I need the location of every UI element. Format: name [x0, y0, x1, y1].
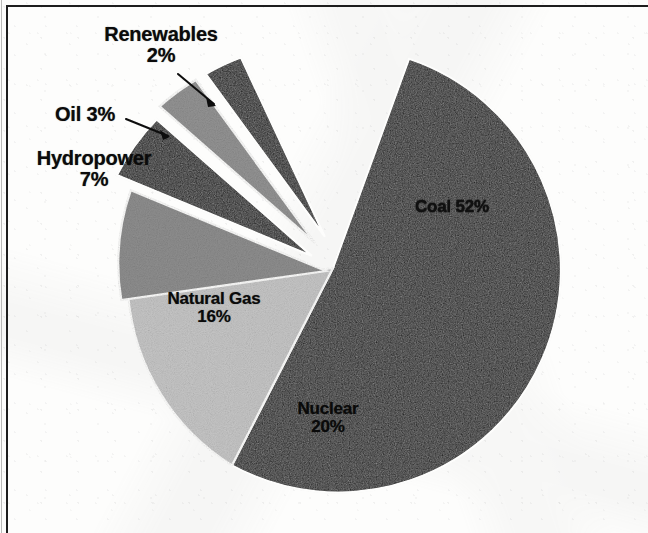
- pie-label-renewables-name: Renewables: [78, 24, 244, 45]
- pie-chart: [0, 0, 648, 533]
- pie-label-hydropower: Hydropower 7%: [14, 148, 174, 190]
- pie-label-renewables: Renewables 2%: [78, 24, 244, 66]
- pie-chart-svg: [0, 0, 648, 533]
- pie-label-nuclear-percent: 20%: [268, 418, 388, 436]
- pie-label-natural-gas-percent: 16%: [134, 308, 294, 326]
- pie-label-oil-name: Oil: [55, 103, 81, 125]
- pie-label-nuclear-name: Nuclear: [268, 400, 388, 418]
- pie-label-coal-percent: 52%: [456, 197, 489, 216]
- pie-label-hydropower-percent: 7%: [14, 169, 174, 190]
- pie-label-renewables-percent: 2%: [78, 45, 244, 66]
- chart-page: Renewables 2% Oil 3% Hydropower 7% Natur…: [0, 0, 648, 533]
- pie-label-oil-percent: 3%: [86, 103, 115, 125]
- pie-label-oil: Oil 3%: [24, 104, 146, 125]
- pie-label-natural-gas-name: Natural Gas: [134, 290, 294, 308]
- pie-label-nuclear: Nuclear 20%: [268, 400, 388, 436]
- pie-label-natural-gas: Natural Gas 16%: [134, 290, 294, 326]
- pie-label-coal-name: Coal: [415, 197, 451, 216]
- pie-label-hydropower-name: Hydropower: [14, 148, 174, 169]
- pie-label-coal: Coal 52%: [396, 198, 508, 216]
